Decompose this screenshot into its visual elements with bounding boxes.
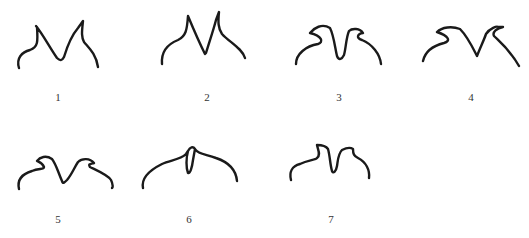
panel-label-1: 1 bbox=[55, 91, 61, 103]
panel-label-6: 6 bbox=[186, 213, 192, 225]
curve-shape-1 bbox=[18, 21, 98, 68]
curve-shape-7 bbox=[290, 145, 369, 180]
panel-label-3: 3 bbox=[336, 91, 342, 103]
panel-label-2: 2 bbox=[204, 91, 210, 103]
curve-shape-6 bbox=[143, 147, 237, 188]
curve-shape-2 bbox=[162, 12, 245, 64]
panel-label-5: 5 bbox=[55, 213, 61, 225]
curve-shape-3 bbox=[296, 26, 381, 64]
curve-shape-5 bbox=[19, 157, 113, 189]
panel-label-7: 7 bbox=[328, 213, 334, 225]
curve-shape-4 bbox=[423, 27, 519, 66]
panel-label-4: 4 bbox=[468, 91, 474, 103]
figure-canvas bbox=[0, 0, 529, 238]
